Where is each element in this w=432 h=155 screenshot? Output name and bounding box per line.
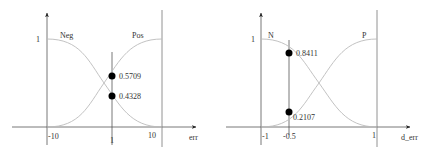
right-chart-d-err: 1 N P 0.8411 0.2107 -1 -0.5 1 d_err	[226, 10, 418, 147]
left-x-axis-label: err	[189, 133, 198, 142]
right-value-upper: 0.8411	[296, 49, 318, 58]
left-value-upper: 0.5709	[119, 72, 141, 81]
right-x-tick-max: 1	[372, 131, 376, 140]
right-p-label: P	[362, 31, 367, 40]
left-neg-label: Neg	[60, 31, 73, 40]
left-point-upper	[109, 73, 116, 80]
right-y-tick-1: 1	[251, 35, 255, 44]
right-p-curve	[261, 39, 377, 127]
right-value-lower: 0.2107	[293, 113, 315, 122]
left-point-lower	[109, 93, 116, 100]
left-x-tick-mid: 1	[110, 136, 114, 145]
right-n-label: N	[268, 31, 274, 40]
left-x-tick-max: 10	[148, 131, 156, 140]
right-x-axis-label: d_err	[401, 133, 418, 142]
left-pos-label: Pos	[132, 31, 144, 40]
membership-function-charts: 1 Neg Pos 0.5709 0.4328 -10 1 10 err 1 N…	[0, 0, 432, 155]
left-chart-err: 1 Neg Pos 0.5709 0.4328 -10 1 10 err	[12, 10, 198, 147]
left-y-tick-1: 1	[36, 35, 40, 44]
right-point-lower	[286, 109, 293, 116]
right-x-tick-mid: -0.5	[283, 132, 296, 141]
right-point-upper	[286, 50, 293, 57]
left-pos-curve	[47, 39, 162, 127]
left-value-lower: 0.4328	[119, 92, 141, 101]
right-x-tick-min: -1	[262, 132, 269, 141]
left-x-tick-min: -10	[48, 132, 59, 141]
